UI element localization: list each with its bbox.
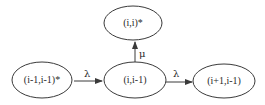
node-i-minus-1-i-minus-1-star: (i-1,i-1)* bbox=[12, 62, 72, 98]
state-transition-diagram: λ μ λ (i,i)* (i-1,i-1)* (i,i-1) (i+1,i-1… bbox=[0, 0, 265, 105]
node-i-i-minus-1: (i,i-1) bbox=[104, 62, 166, 98]
edge-center-to-right: λ bbox=[166, 68, 192, 82]
node-i-plus-1-i-minus-1: (i+1,i-1) bbox=[193, 64, 255, 98]
edge-center-to-top: μ bbox=[135, 42, 146, 63]
node-label-left: (i-1,i-1)* bbox=[24, 74, 60, 86]
node-label-right: (i+1,i-1) bbox=[207, 75, 241, 87]
edge-left-to-center: λ bbox=[74, 68, 102, 81]
node-i-i-star: (i,i)* bbox=[104, 6, 162, 40]
edge-label-lambda-1: λ bbox=[84, 68, 91, 79]
edge-label-lambda-2: λ bbox=[173, 68, 180, 79]
node-label-center: (i,i-1) bbox=[123, 74, 146, 86]
edge-label-mu: μ bbox=[139, 48, 146, 59]
node-label-top: (i,i)* bbox=[123, 17, 143, 29]
